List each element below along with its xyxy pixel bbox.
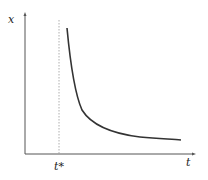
diagram: x t t* [0,0,208,180]
x-axis-arrow-icon [192,153,196,156]
y-axis-arrow-icon [24,12,27,16]
decay-curve [67,28,181,140]
t-star-label: t* [54,160,64,173]
y-axis-label: x [8,13,15,26]
x-axis [25,153,196,156]
y-axis [24,12,27,154]
x-axis-label: t [186,156,191,169]
